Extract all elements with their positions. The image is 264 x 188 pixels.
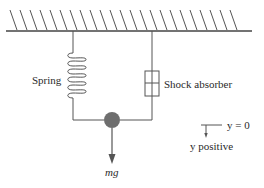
spring-damper-diagram: Spring Shock absorber mg y = 0 y positiv…	[0, 0, 264, 188]
y-axis-reference-icon	[201, 125, 222, 138]
force-label: mg	[105, 166, 119, 178]
ceiling-hatching	[10, 10, 237, 30]
y-zero-label: y = 0	[227, 119, 250, 131]
spring-label: Spring	[32, 74, 62, 86]
shock-absorber-label: Shock absorber	[164, 78, 232, 90]
y-positive-label: y positive	[190, 140, 233, 152]
mass-icon	[104, 112, 120, 128]
gravity-arrow-icon	[109, 128, 116, 164]
spring-icon	[68, 31, 104, 120]
shock-absorber-icon	[120, 31, 159, 120]
